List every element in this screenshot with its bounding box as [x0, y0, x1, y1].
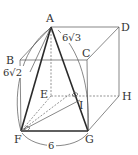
vertex-label-A: A [45, 12, 55, 25]
vertex-label-B: B [6, 54, 14, 67]
edge-HG [88, 96, 119, 131]
measure-label-AG: 6√3 [62, 32, 81, 43]
vertex-label-I: I [79, 99, 83, 112]
measure-label-FG: 6 [48, 140, 54, 151]
vertex-label-C: C [82, 47, 90, 60]
vertex-label-G: G [85, 133, 94, 146]
vertex-label-F: F [14, 133, 22, 146]
vertex-label-H: H [122, 90, 132, 103]
vertex-label-E: E [40, 88, 48, 101]
segment-FI [21, 100, 80, 131]
arc-AG [58, 30, 88, 131]
geometry-diagram: A B C D E F G H I 6√2 6√3 6 [0, 0, 138, 155]
edge-DC [87, 27, 119, 60]
vertex-label-D: D [121, 21, 130, 34]
measure-label-AF: 6√2 [3, 67, 22, 78]
